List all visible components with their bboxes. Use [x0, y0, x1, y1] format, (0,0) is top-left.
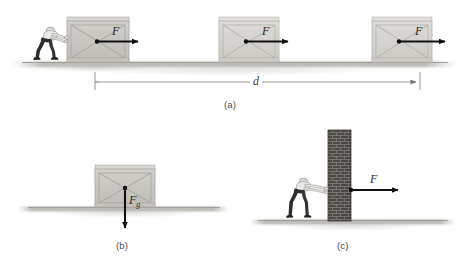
force-arrow-wall [349, 188, 398, 192]
panel-a [12, 17, 456, 90]
crate-2 [219, 17, 279, 62]
gravity-force-label: Fg [129, 193, 140, 209]
panel-c-ground [250, 218, 455, 231]
force-label-crate-1: F [112, 24, 119, 39]
distance-label: d [250, 74, 262, 89]
crate-3 [372, 17, 432, 62]
person-pushing-crate [33, 27, 68, 60]
panel-c [250, 130, 455, 231]
brick-wall [328, 130, 351, 221]
caption-a: (a) [224, 99, 236, 110]
gravity-force-subscript: g [136, 200, 140, 209]
caption-c: (c) [337, 240, 349, 251]
force-label-crate-3: F [415, 24, 422, 39]
force-label-wall: F [370, 172, 377, 187]
caption-b: (b) [116, 240, 128, 251]
person-pushing-wall [286, 178, 328, 218]
panel-b [18, 165, 228, 228]
force-label-crate-2: F [262, 24, 269, 39]
crate-1 [67, 17, 129, 62]
physics-figure [0, 0, 467, 266]
